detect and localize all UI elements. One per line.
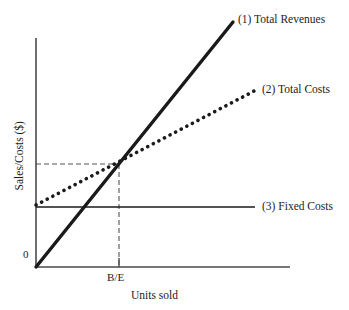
- series-label-fixed-costs: (3) Fixed Costs: [262, 201, 333, 213]
- x-axis-tick-label-break-even: B/E: [107, 272, 124, 283]
- chart-canvas: [0, 0, 349, 310]
- breakeven-chart-figure: (1) Total Revenues (2) Total Costs (3) F…: [0, 0, 349, 310]
- series-label-total-costs: (2) Total Costs: [262, 84, 330, 96]
- axis-origin-label: 0: [23, 249, 29, 260]
- series-line-total-revenues: [36, 22, 233, 267]
- y-axis-title: Sales/Costs ($): [14, 108, 26, 204]
- x-axis-title: Units sold: [131, 290, 178, 302]
- series-line-total-costs: [36, 89, 258, 205]
- series-label-total-revenues: (1) Total Revenues: [238, 14, 325, 26]
